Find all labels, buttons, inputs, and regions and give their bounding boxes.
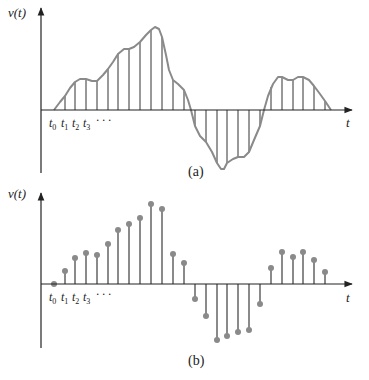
tick-labels: t0 t1 t2 t3 · · · — [49, 287, 111, 306]
sample-marker — [268, 265, 274, 271]
sample-marker — [105, 241, 111, 247]
x-axis-label: t — [346, 290, 350, 305]
sample-marker — [290, 254, 296, 260]
sample-marker — [137, 215, 143, 221]
y-axis-label: v(t) — [8, 5, 26, 20]
sample-marker — [115, 227, 121, 233]
sample-marker — [203, 313, 209, 319]
tick-label-t1: t1 — [61, 116, 68, 132]
sample-marker — [246, 327, 252, 333]
tick-label-t2: t2 — [72, 290, 79, 306]
sample-marker — [224, 333, 230, 339]
sampling-figure: v(t) t t0 t1 t2 t3 · · · (a) v(t) t t0 t… — [0, 0, 369, 380]
sample-marker — [311, 257, 317, 263]
sample-marker — [214, 337, 220, 343]
tick-label-t2: t2 — [72, 116, 79, 132]
caption-a: (a) — [188, 164, 204, 180]
tick-label-ellipsis: · · · — [96, 287, 111, 301]
sample-marker — [257, 301, 263, 307]
sample-marker — [279, 249, 285, 255]
sample-marker — [72, 255, 78, 261]
caption-b: (b) — [188, 353, 205, 369]
sample-marker — [170, 251, 176, 257]
sample-marker — [300, 249, 306, 255]
sample-lines — [65, 30, 325, 163]
sample-marker — [159, 206, 165, 212]
x-axis-label: t — [346, 115, 350, 130]
tick-label-t3: t3 — [83, 290, 90, 306]
sample-stems — [51, 201, 328, 343]
tick-label-t0: t0 — [49, 290, 56, 306]
tick-label-t3: t3 — [83, 116, 90, 132]
sample-marker — [181, 260, 187, 266]
sample-marker — [192, 296, 198, 302]
tick-label-t1: t1 — [61, 290, 68, 306]
tick-label-t0: t0 — [49, 116, 56, 132]
continuous-signal-curve — [54, 27, 331, 169]
sample-marker — [322, 269, 328, 275]
sample-marker — [148, 201, 154, 207]
sample-marker — [94, 252, 100, 258]
panel-b-sampled-signal: v(t) t t0 t1 t2 t3 · · · (b) — [8, 186, 352, 369]
tick-labels: t0 t1 t2 t3 · · · — [49, 113, 111, 132]
sample-marker — [83, 250, 89, 256]
sample-marker — [62, 268, 68, 274]
tick-label-ellipsis: · · · — [96, 113, 111, 127]
sample-marker — [126, 221, 132, 227]
y-axis-label: v(t) — [8, 186, 26, 201]
sample-marker — [235, 329, 241, 335]
panel-a-continuous-signal: v(t) t t0 t1 t2 t3 · · · (a) — [8, 5, 352, 180]
